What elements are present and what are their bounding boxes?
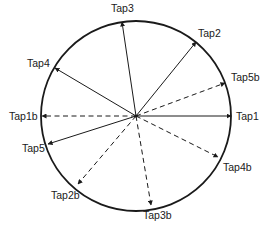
tap3b-vector xyxy=(136,116,151,205)
tap5b-label: Tap5b xyxy=(231,71,260,83)
tap4b-vector xyxy=(136,116,218,157)
tap2-vector xyxy=(136,42,196,116)
tap3-label: Tap3 xyxy=(111,2,134,14)
tap-labels: Tap3Tap2Tap5bTap1Tap4bTap3bTap2bTap5Tap1… xyxy=(9,2,260,221)
tap2b-vector xyxy=(78,116,136,184)
tap5-vector xyxy=(48,116,136,144)
tap3-vector xyxy=(122,22,136,116)
tap3b-label: Tap3b xyxy=(143,209,172,221)
tap1-label: Tap1 xyxy=(236,110,259,122)
tap5-label: Tap5 xyxy=(22,142,45,154)
center-point xyxy=(134,114,137,117)
tap2b-label: Tap2b xyxy=(51,189,80,201)
tap4-label: Tap4 xyxy=(27,57,50,69)
tap2-label: Tap2 xyxy=(198,27,221,39)
tap-phasor-diagram: Tap3Tap2Tap5bTap1Tap4bTap3bTap2bTap5Tap1… xyxy=(0,0,267,231)
tap4b-label: Tap4b xyxy=(223,161,252,173)
tap1b-label: Tap1b xyxy=(9,110,38,122)
tap4-vector xyxy=(55,68,136,116)
